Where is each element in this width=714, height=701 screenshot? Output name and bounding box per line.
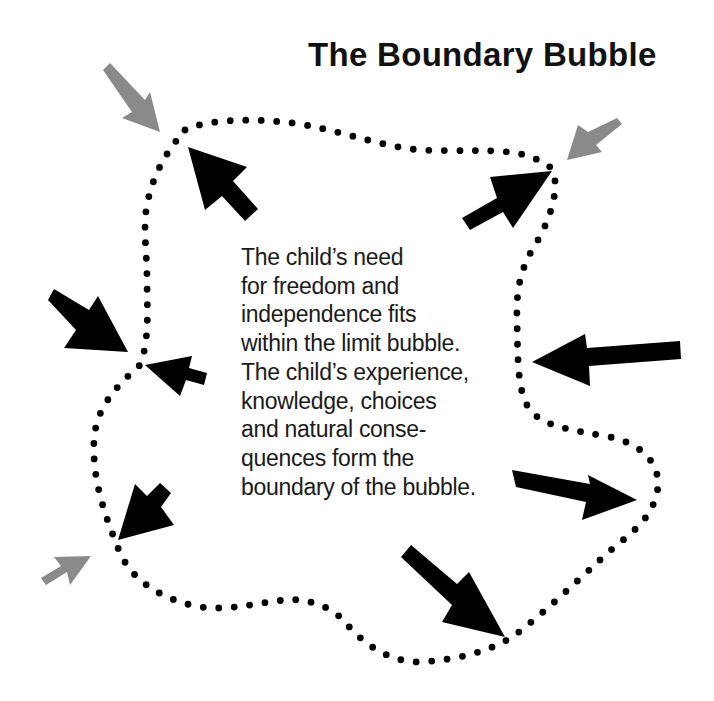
gray-arrow-icon-gray-top-left xyxy=(103,63,160,132)
black-arrow-icon-black-lower-left-inner xyxy=(118,483,174,540)
black-arrow-icon-black-top-left-inner xyxy=(188,147,258,221)
description-line: knowledge, choices xyxy=(241,387,541,416)
gray-arrow-icon-gray-top-right xyxy=(567,118,622,160)
black-arrow-icon-black-right-middle xyxy=(532,334,681,386)
black-arrow-icon-black-top-right-inner xyxy=(462,171,552,230)
black-arrow-icon-black-bottom-right xyxy=(401,545,505,637)
description-line: within the limit bubble. xyxy=(241,329,541,358)
description-line: The child’s experience, xyxy=(241,358,541,387)
description-text: The child’s need for freedom and indepen… xyxy=(241,243,541,501)
black-arrow-icon-black-left-outer xyxy=(48,289,128,352)
description-line: quences form the xyxy=(241,444,541,473)
gray-arrow-icon-gray-lower-left xyxy=(41,556,91,585)
description-line: boundary of the bubble. xyxy=(241,473,541,502)
description-line: The child’s need xyxy=(241,243,541,272)
description-line: and natural conse- xyxy=(241,415,541,444)
description-line: for freedom and xyxy=(241,272,541,301)
description-line: independence fits xyxy=(241,300,541,329)
black-arrow-icon-black-left-inner xyxy=(145,356,207,396)
diagram-title: The Boundary Bubble xyxy=(308,36,657,74)
